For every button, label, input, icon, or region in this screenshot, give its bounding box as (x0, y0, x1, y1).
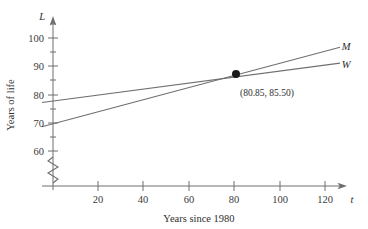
axes-group (42, 16, 347, 190)
data-lines-group (42, 47, 340, 127)
x-axis-symbol-label: t (351, 194, 355, 205)
x-axis-title: Years since 1980 (163, 213, 234, 224)
x-tick-label-40: 40 (138, 194, 149, 205)
x-tick-label-20: 20 (93, 194, 104, 205)
intersection-annotation-text: (80.85, 85.50) (240, 88, 294, 99)
intersection-point-marker (232, 70, 240, 78)
x-tick-label-100: 100 (272, 194, 288, 205)
series-label-m: M (341, 41, 352, 52)
y-axis-title: Years of life (5, 79, 16, 131)
y-tick-label-80: 80 (34, 90, 45, 101)
y-tick-label-70: 70 (34, 118, 45, 129)
y-tick-label-100: 100 (28, 33, 44, 44)
x-tick-label-80: 80 (229, 194, 240, 205)
chart-canvas: 100 90 80 70 60 20 40 60 80 100 120 L t … (0, 0, 368, 229)
x-tick-label-120: 120 (317, 194, 333, 205)
series-line-w (42, 63, 340, 102)
y-tick-labels: 100 90 80 70 60 (28, 33, 44, 157)
series-label-w: W (342, 59, 352, 70)
y-axis-symbol-label: L (38, 11, 45, 22)
y-tick-label-90: 90 (34, 61, 45, 72)
series-line-m (42, 47, 340, 127)
x-tick-labels: 20 40 60 80 100 120 (93, 194, 333, 205)
x-tick-label-60: 60 (184, 194, 195, 205)
life-expectancy-chart: 100 90 80 70 60 20 40 60 80 100 120 L t … (0, 0, 368, 229)
y-tick-label-60: 60 (34, 146, 45, 157)
